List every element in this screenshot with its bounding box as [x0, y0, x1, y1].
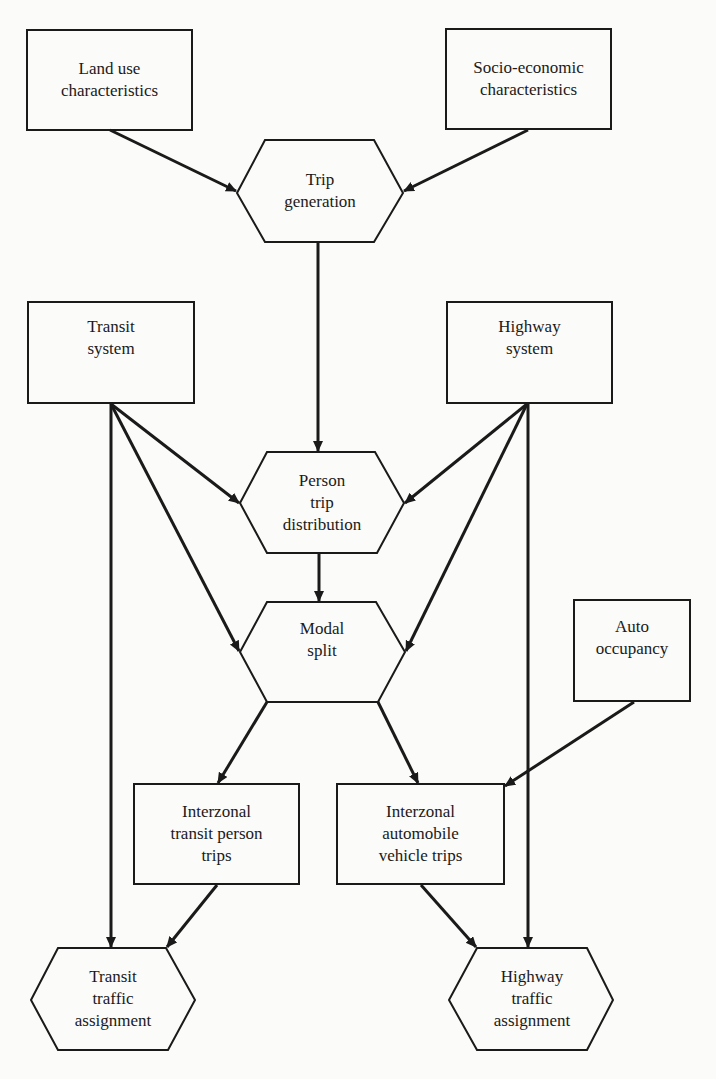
- arrow-modal-to-interzonal-auto: [378, 702, 418, 783]
- label-auto-occupancy: Auto occupancy: [574, 600, 690, 676]
- arrow-transit-to-distribution: [111, 404, 239, 503]
- label-highway-system: Highway system: [447, 302, 612, 374]
- label-transit-system: Transit system: [28, 302, 194, 374]
- label-highway-assignment: Highway traffic assignment: [462, 948, 602, 1050]
- arrow-modal-to-interzonal-transit: [218, 702, 267, 783]
- arrow-socio-to-tripgen: [404, 130, 528, 191]
- label-interzonal-transit: Interzonal transit person trips: [134, 784, 299, 884]
- arrow-transit-to-modal: [111, 404, 239, 651]
- label-trip-generation: Trip generation: [250, 140, 390, 242]
- arrow-interzonal-auto-to-assignment: [421, 885, 476, 947]
- label-socio-economic: Socio-economic characteristics: [446, 29, 611, 129]
- label-modal-split: Modal split: [252, 602, 392, 678]
- arrow-landuse-to-tripgen: [110, 130, 236, 191]
- label-person-trip-distribution: Person trip distribution: [252, 452, 392, 553]
- arrow-highway-to-modal: [406, 404, 527, 651]
- arrow-interzonal-transit-to-assignment: [167, 885, 217, 947]
- label-land-use: Land use characteristics: [27, 30, 192, 130]
- label-transit-assignment: Transit traffic assignment: [43, 948, 183, 1050]
- arrow-highway-to-distribution: [405, 404, 527, 503]
- label-interzonal-auto: Interzonal automobile vehicle trips: [337, 784, 504, 884]
- arrow-occupancy-to-interzonal-auto: [505, 702, 634, 786]
